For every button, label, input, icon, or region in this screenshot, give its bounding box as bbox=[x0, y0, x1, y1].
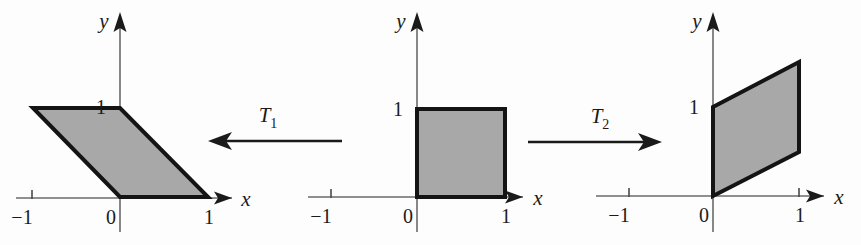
y-tick-label-one: 1 bbox=[689, 96, 699, 118]
x-tick-label-one: 1 bbox=[795, 204, 805, 226]
x-axis-label: x bbox=[833, 185, 844, 209]
y-axis-label: y bbox=[394, 9, 406, 33]
arrow-t1-label-sub: 1 bbox=[270, 116, 277, 131]
x-tick-label-neg-one: −1 bbox=[11, 206, 32, 228]
y-tick-label-one: 1 bbox=[393, 98, 403, 120]
figure-canvas: −1 0 1 1 x y T1 bbox=[0, 0, 861, 245]
x-tick-label-neg-one: −1 bbox=[310, 205, 331, 227]
panel-right: −1 0 1 1 x y bbox=[580, 0, 861, 245]
x-tick-label-zero: 0 bbox=[403, 205, 413, 227]
shape-parallelogram-left bbox=[33, 108, 208, 197]
arrow-t1-label: T1 bbox=[259, 103, 278, 131]
shape-parallelogram-right bbox=[713, 62, 799, 196]
x-tick-label-one: 1 bbox=[501, 205, 511, 227]
panel-right-svg: −1 0 1 1 x y bbox=[580, 0, 861, 245]
shape-unit-square bbox=[417, 109, 505, 197]
y-axis-label: y bbox=[690, 9, 702, 33]
y-tick-label-one: 1 bbox=[96, 96, 106, 118]
x-tick-label-zero: 0 bbox=[106, 206, 116, 228]
x-tick-label-zero: 0 bbox=[699, 204, 709, 226]
y-axis-label: y bbox=[97, 9, 109, 33]
x-tick-label-neg-one: −1 bbox=[608, 204, 629, 226]
